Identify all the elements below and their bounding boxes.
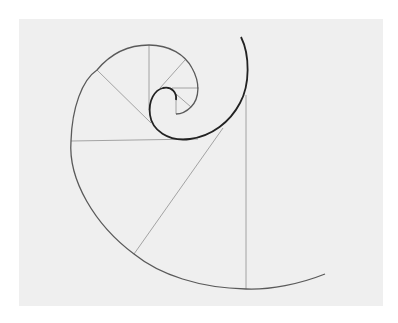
diagonal-radius-line-upper-left: [97, 70, 151, 123]
diagonal-radius-line-upper-right: [160, 60, 185, 88]
golden-spiral-diagram: [0, 0, 398, 323]
diagonal-radius-line-lower: [134, 128, 223, 254]
construction-lines: [71, 45, 246, 289]
diagonal-radius-line-inner: [176, 94, 191, 107]
